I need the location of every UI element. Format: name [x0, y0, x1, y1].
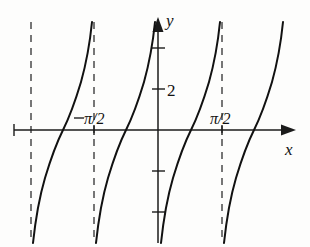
- pi-over-2-label-left: π/2: [84, 110, 104, 127]
- y-tick-label-2: 2: [167, 81, 176, 100]
- pi-over-2-label-right: π/2: [210, 110, 230, 127]
- curve-branch-3: [161, 22, 220, 243]
- asymptote-group: [31, 22, 222, 243]
- curve-branch-4: [224, 22, 283, 243]
- x-axis-label: x: [284, 140, 293, 159]
- figure-container: y x 2 π/2 π/2: [0, 0, 310, 247]
- curve-branch-2: [96, 22, 155, 243]
- tangent-graph-svg: y x 2 π/2 π/2: [0, 0, 310, 247]
- arrow-right-icon: [281, 125, 296, 136]
- curve-branch-1: [33, 22, 92, 243]
- y-axis-label: y: [164, 11, 174, 30]
